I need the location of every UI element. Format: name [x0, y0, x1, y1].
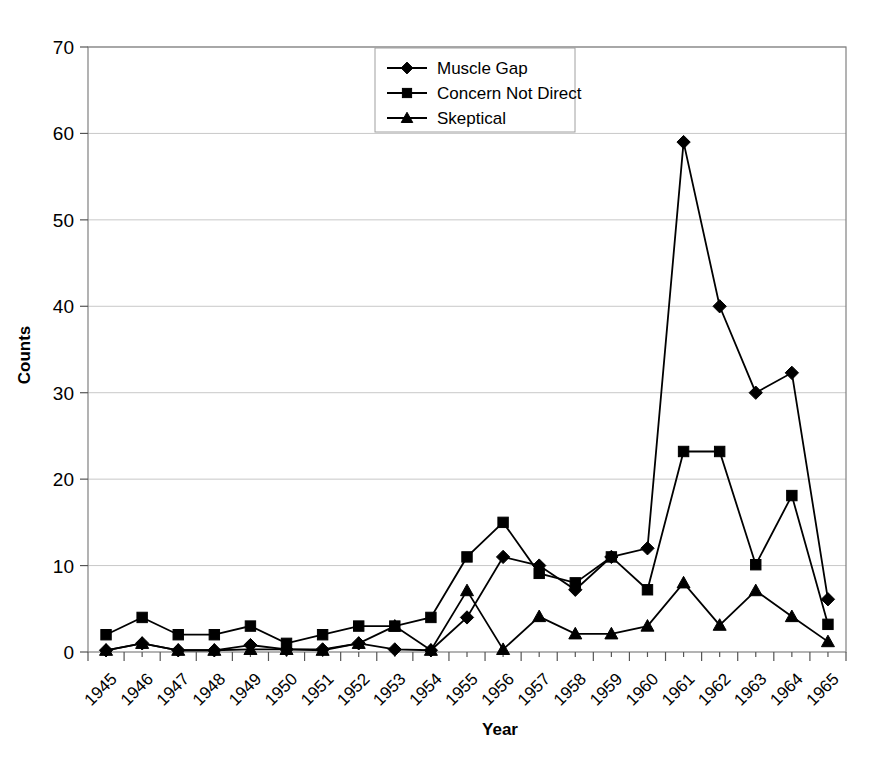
data-point	[101, 630, 111, 640]
data-point	[823, 619, 833, 629]
chart-legend: Muscle GapConcern Not DirectSkeptical	[375, 48, 582, 132]
data-point	[462, 552, 472, 562]
y-tick-label-60: 60	[53, 123, 74, 144]
data-point	[317, 630, 327, 640]
data-point	[751, 560, 761, 570]
data-point	[137, 612, 147, 622]
y-tick-label-10: 10	[53, 556, 74, 577]
y-tick-label-30: 30	[53, 383, 74, 404]
chart-container: 010203040506070 194519461947194819491950…	[0, 0, 877, 760]
data-point	[498, 517, 508, 527]
data-point	[606, 552, 616, 562]
data-point	[534, 568, 544, 578]
legend-item-label: Muscle Gap	[437, 59, 528, 78]
data-point	[173, 630, 183, 640]
y-tick-label-20: 20	[53, 469, 74, 490]
x-axis-title: Year	[482, 720, 518, 739]
y-tick-label-0: 0	[63, 642, 74, 663]
y-tick-label-70: 70	[53, 37, 74, 58]
legend-item-label: Concern Not Direct	[437, 84, 582, 103]
line-chart: 010203040506070 194519461947194819491950…	[0, 0, 877, 760]
square-marker-icon	[402, 88, 411, 97]
y-tick-label-40: 40	[53, 296, 74, 317]
data-point	[570, 578, 580, 588]
y-tick-label-50: 50	[53, 210, 74, 231]
data-point	[714, 446, 724, 456]
data-point	[678, 446, 688, 456]
data-point	[426, 612, 436, 622]
data-point	[642, 585, 652, 595]
data-point	[354, 621, 364, 631]
data-point	[787, 490, 797, 500]
y-axis-title: Counts	[15, 326, 34, 385]
data-point	[209, 630, 219, 640]
legend-item-label: Skeptical	[437, 109, 506, 128]
data-point	[245, 621, 255, 631]
